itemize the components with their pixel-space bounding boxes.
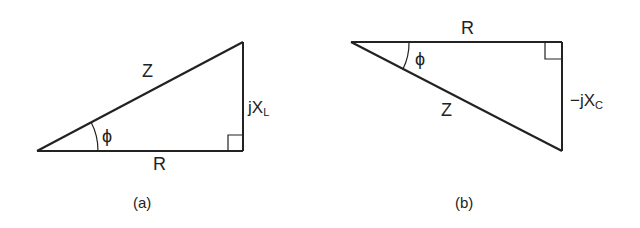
triangle-a-angle-arc: [91, 122, 98, 151]
triangle-a-z-label: Z: [142, 62, 153, 80]
triangle-b-right-angle-marker: [545, 42, 562, 59]
triangle-b-phi-label: ϕ: [415, 50, 425, 68]
triangle-b-r-label: R: [461, 19, 474, 37]
triangle-a: [37, 42, 243, 151]
triangle-a-jxl-main: jX: [248, 98, 263, 117]
caption-b: (b): [455, 195, 473, 210]
triangle-b-angle-arc: [403, 42, 409, 69]
triangle-a-phi-label: ϕ: [102, 127, 112, 145]
triangle-b-jxc-main: −jX: [570, 91, 595, 110]
caption-a: (a): [133, 195, 151, 210]
triangle-a-jxl-sub: L: [263, 106, 269, 118]
triangle-b-jxc-label: −jXC: [570, 92, 603, 111]
triangle-b: [351, 42, 562, 151]
triangle-a-right-angle-marker: [228, 135, 243, 151]
triangle-b-jxc-sub: C: [595, 99, 603, 111]
triangle-a-hypotenuse-z: [37, 42, 243, 151]
impedance-triangles-canvas: [0, 0, 640, 228]
triangle-b-z-label: Z: [441, 101, 452, 119]
triangle-a-r-label: R: [153, 155, 166, 173]
triangle-a-jxl-label: jXL: [248, 99, 269, 118]
triangle-b-hypotenuse-z: [351, 42, 562, 151]
